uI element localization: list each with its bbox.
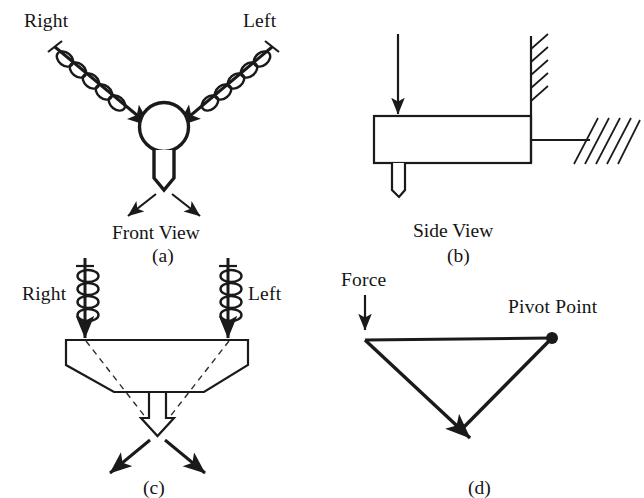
panel-c-right-spring-arrow — [76, 258, 99, 338]
panel-a-caption: (a) — [152, 245, 174, 267]
panel-c: Right Left (c) — [22, 258, 282, 498]
panel-b: Side View (b) — [374, 34, 640, 267]
coil-winding — [221, 270, 242, 321]
figure-container: Right Left Front View (a) — [0, 0, 644, 498]
panel-a-label-right: Right — [24, 10, 69, 31]
coil-winding — [199, 48, 273, 114]
wall-hatching — [531, 34, 548, 101]
panel-b-caption: (b) — [447, 245, 470, 267]
reaction-arrow-left — [110, 440, 150, 473]
panel-d-caption: (d) — [468, 477, 491, 498]
pivot-member — [462, 338, 552, 429]
reaction-arrow-right — [165, 440, 205, 473]
panel-d-force-label: Force — [341, 269, 386, 290]
panel-a-right-spring-arrow — [48, 41, 150, 126]
panel-c-label-right: Right — [22, 283, 67, 304]
panel-c-label-left: Left — [248, 283, 282, 304]
panel-d-pivot-label: Pivot Point — [508, 296, 598, 317]
spring-arrow-shaft — [178, 47, 272, 126]
panel-a-left-spring-arrow — [178, 41, 279, 126]
panel-a-view-label: Front View — [112, 222, 200, 243]
panel-d: Force Pivot Point (d) — [341, 269, 598, 498]
body-rectangle — [374, 116, 531, 163]
blade — [392, 163, 405, 197]
resultant-arrow — [365, 340, 470, 438]
panel-c-caption: (c) — [143, 477, 165, 498]
panel-c-left-spring-arrow — [219, 258, 242, 338]
panel-a: Right Left Front View (a) — [24, 10, 279, 267]
panel-b-view-label: Side View — [413, 220, 493, 241]
coil-winding — [54, 48, 128, 114]
hub-circle — [140, 103, 189, 152]
pivot-point-dot — [546, 332, 558, 344]
panel-a-label-left: Left — [243, 10, 277, 31]
chamfered-block — [66, 340, 248, 392]
reaction-arrow-right — [172, 194, 200, 216]
chisel-pin — [154, 150, 174, 190]
spring-arrow-shaft — [55, 47, 150, 126]
horizontal-member — [365, 338, 552, 340]
coil-winding — [78, 270, 99, 321]
reaction-arrow-left — [128, 194, 156, 216]
hollow-arrow-tip — [141, 392, 174, 436]
technical-diagram-svg: Right Left Front View (a) — [0, 0, 644, 498]
